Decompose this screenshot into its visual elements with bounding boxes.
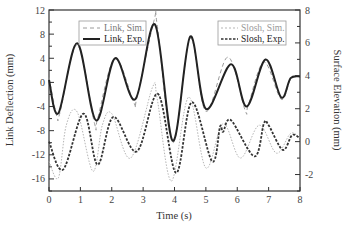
- x-tick-label: 6: [235, 194, 240, 205]
- legend-slosh-sim-label: Slosh, Sim.: [241, 23, 285, 33]
- series-slosh-exp: [49, 94, 300, 173]
- x-tick-label: 4: [172, 194, 177, 205]
- y-left-tick-label: 8: [40, 29, 45, 40]
- legend-slosh-exp-label: Slosh, Exp.: [241, 34, 285, 44]
- y-right-tick-label: 6: [305, 37, 310, 48]
- legend-link-sim-label: Link, Sim.: [104, 23, 144, 33]
- x-tick-label: 0: [47, 194, 52, 205]
- y-left-tick-label: -8: [37, 125, 45, 136]
- y-right-tick-label: 2: [305, 103, 310, 114]
- y-right-tick-label: -2: [305, 169, 313, 180]
- x-tick-label: 5: [203, 194, 208, 205]
- x-tick-label: 3: [141, 194, 146, 205]
- y-left-tick-label: 12: [35, 5, 45, 16]
- y-right-tick-label: 4: [305, 70, 310, 81]
- chart-canvas: 01234567812840-4-8-12-1686420-2 Time (s)…: [0, 0, 346, 229]
- legend-slosh: Slosh, Sim. Slosh, Exp.: [218, 21, 286, 45]
- x-tick-label: 8: [298, 194, 303, 205]
- legend-link: Link, Sim. Link, Exp.: [79, 21, 146, 45]
- y-right-tick-label: 0: [305, 136, 310, 147]
- series-slosh-sim: [49, 82, 300, 181]
- y-right-axis-title: Surface Elevation (mm): [331, 50, 343, 151]
- x-tick-label: 2: [109, 194, 114, 205]
- x-tick-label: 1: [78, 194, 83, 205]
- x-tick-label: 7: [266, 194, 271, 205]
- y-left-tick-label: -12: [32, 149, 45, 160]
- y-left-tick-label: -4: [37, 101, 45, 112]
- y-right-tick-label: 8: [305, 5, 310, 16]
- y-left-axis-title: Link Deflection (mm): [4, 53, 16, 146]
- x-axis-title: Time (s): [156, 210, 192, 222]
- y-left-tick-label: -16: [32, 173, 45, 184]
- y-left-tick-label: 0: [40, 77, 45, 88]
- legend-link-exp-label: Link, Exp.: [104, 34, 144, 44]
- y-left-tick-label: 4: [40, 53, 45, 64]
